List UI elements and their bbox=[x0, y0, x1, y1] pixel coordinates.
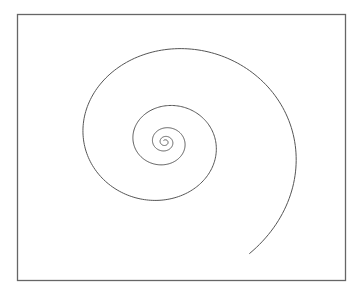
frame-border bbox=[18, 15, 346, 281]
spiral-figure bbox=[0, 0, 359, 295]
spiral-curve bbox=[83, 49, 296, 254]
